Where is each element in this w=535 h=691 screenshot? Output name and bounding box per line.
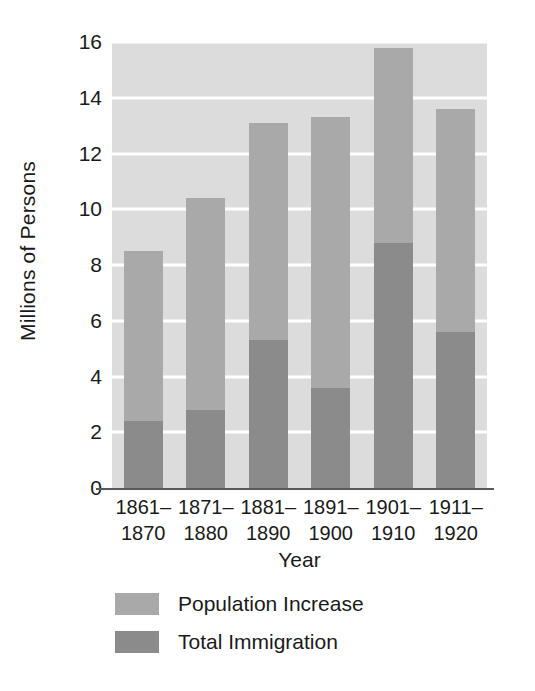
legend-label: Total Immigration [178,630,338,654]
plot-area [112,42,487,488]
y-axis-tick-label: 8 [90,253,102,277]
bar-segment-total-immigration[interactable] [249,340,288,488]
x-axis-title: Year [112,548,487,572]
bar-segment-population-increase[interactable] [374,48,413,243]
bar-segment-total-immigration[interactable] [124,421,163,488]
legend-swatch [115,631,159,653]
bar-group[interactable] [436,42,475,488]
y-axis-tick-label: 6 [90,309,102,333]
y-axis-tick-label: 10 [79,197,102,221]
chart-legend: Population IncreaseTotal Immigration [115,585,445,661]
x-axis-tick-line: 1911– [419,494,493,520]
x-axis-tick-label: 1911–1920 [419,494,493,546]
bar-group[interactable] [124,42,163,488]
legend-label: Population Increase [178,592,364,616]
bar-segment-total-immigration[interactable] [186,410,225,488]
x-axis-line [96,488,494,490]
legend-item[interactable]: Population Increase [115,585,445,623]
bar-segment-population-increase[interactable] [249,123,288,340]
bar-segment-population-increase[interactable] [436,109,475,332]
bar-group[interactable] [186,42,225,488]
bar-segment-total-immigration[interactable] [374,243,413,488]
bar-segment-total-immigration[interactable] [436,332,475,488]
stacked-bar-chart-figure: Millions of Persons 1614121086420 1861–1… [0,0,535,691]
y-axis-tick-labels: 1614121086420 [62,42,108,488]
bar-segment-population-increase[interactable] [186,198,225,410]
y-axis-tick-label: 4 [90,365,102,389]
y-axis-tick-label: 14 [79,86,102,110]
bar-segment-population-increase[interactable] [124,251,163,421]
bar-segment-population-increase[interactable] [311,117,350,387]
legend-item[interactable]: Total Immigration [115,623,445,661]
legend-swatch [115,593,159,615]
bar-group[interactable] [249,42,288,488]
x-axis-tick-line: 1920 [419,520,493,546]
x-axis-tick-labels: 1861–18701871–18801881–18901891–19001901… [112,494,487,548]
bar-group[interactable] [311,42,350,488]
bar-group[interactable] [374,42,413,488]
y-axis-tick-label: 2 [90,420,102,444]
y-axis-title: Millions of Persons [16,141,40,361]
bar-segment-total-immigration[interactable] [311,388,350,488]
y-axis-tick-label: 16 [79,30,102,54]
y-axis-tick-label: 12 [79,142,102,166]
bars-layer [112,42,487,488]
